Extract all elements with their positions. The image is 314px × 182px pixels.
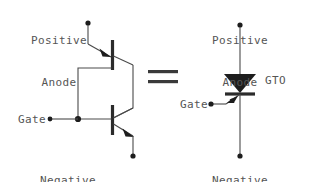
npn-emitter-arrowhead <box>123 129 135 138</box>
left-cathode-label-line1: Negative <box>33 174 103 182</box>
left-cathode-label: Negative Cathode <box>33 146 103 182</box>
equals-sign-symbol <box>148 70 178 83</box>
gto-anode-label: Positive Anode <box>205 6 275 118</box>
gto-cathode-label: Negative Cathode <box>205 146 275 182</box>
npn-collector-lead <box>114 108 134 118</box>
diagram-canvas: Positive Anode Gate Negative Cathode Pos… <box>0 0 314 182</box>
left-anode-label-line1: Positive <box>24 34 94 48</box>
left-anode-label: Positive Anode <box>24 6 94 118</box>
gto-device-label: GTO <box>265 74 305 87</box>
equals-bar-top <box>148 70 178 73</box>
left-cathode-terminal-dot <box>130 153 135 158</box>
pnp-collector-lead <box>114 56 134 65</box>
left-gate-label: Gate <box>6 113 46 126</box>
left-anode-label-line2: Anode <box>24 76 94 90</box>
gto-gate-label: Gate <box>168 98 208 111</box>
gto-anode-label-line1: Positive <box>205 34 275 48</box>
gto-cathode-label-line1: Negative <box>205 174 275 182</box>
equals-bar-bottom <box>148 80 178 83</box>
